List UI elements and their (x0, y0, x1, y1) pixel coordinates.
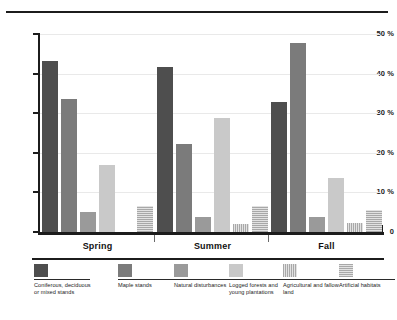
bar (366, 210, 382, 232)
bar (99, 165, 115, 232)
x-axis-label-fall: Fall (267, 241, 387, 251)
legend-swatch-icon (339, 264, 353, 277)
legend-underline (339, 279, 395, 280)
y-axis-tick-mark (33, 231, 39, 233)
bar (347, 223, 363, 232)
bar (137, 206, 153, 232)
legend-item[interactable]: Coniferous, deciduous or mixed stands (34, 264, 92, 296)
x-axis-group-separator (268, 235, 269, 242)
gridline (40, 34, 380, 35)
y-axis-tick-mark (33, 112, 39, 114)
legend-label: Agricultural and fallow land (283, 282, 341, 296)
gridline (40, 113, 380, 114)
bar (42, 61, 58, 232)
legend-swatch-icon (174, 264, 188, 277)
legend-underline (34, 279, 90, 280)
legend-swatch-icon (229, 264, 243, 277)
legend-underline (174, 279, 230, 280)
chart-plot-area: 010 %20 %30 %40 %50 % SpringSummerFall (0, 22, 394, 238)
y-axis-tick-mark (33, 152, 39, 154)
y-axis-tick-mark (33, 191, 39, 193)
legend-swatch-icon (34, 264, 48, 277)
bar (214, 118, 230, 232)
legend-item[interactable]: Logged forests and young plantations (229, 264, 287, 296)
bar (271, 102, 287, 232)
y-axis-line (38, 33, 40, 234)
legend-label: Natural disturbances (174, 282, 232, 289)
bar (176, 144, 192, 232)
legend-swatch-icon (118, 264, 132, 277)
legend-label: Maple stands (118, 282, 176, 289)
bar (252, 206, 268, 232)
legend-underline (283, 279, 339, 280)
legend-label: Artificial habitats (339, 282, 397, 289)
chart-legend: Coniferous, deciduous or mixed standsMap… (0, 258, 394, 320)
y-axis-tick-mark (33, 73, 39, 75)
gridline (40, 74, 380, 75)
bar (233, 224, 249, 232)
bar (157, 67, 173, 232)
bar (80, 212, 96, 232)
legend-swatch-icon (283, 264, 297, 277)
bar (290, 43, 306, 232)
legend-item[interactable]: Natural disturbances (174, 264, 232, 289)
bar (61, 99, 77, 232)
legend-item[interactable]: Artificial habitats (339, 264, 397, 289)
x-axis-label-spring: Spring (38, 241, 158, 251)
x-axis-group-separator (154, 235, 155, 242)
bar (309, 217, 325, 232)
bar (328, 178, 344, 232)
legend-underline (229, 279, 285, 280)
legend-underline (118, 279, 174, 280)
bar (195, 217, 211, 232)
y-axis-tick-mark (33, 33, 39, 35)
legend-item[interactable]: Maple stands (118, 264, 176, 289)
top-divider-rule (6, 11, 388, 13)
legend-label: Logged forests and young plantations (229, 282, 287, 296)
x-axis-label-summer: Summer (153, 241, 273, 251)
legend-item[interactable]: Agricultural and fallow land (283, 264, 341, 296)
legend-label: Coniferous, deciduous or mixed stands (34, 282, 92, 296)
x-axis-line (38, 232, 384, 235)
legend-divider-rule (32, 258, 384, 260)
gridline (40, 153, 380, 154)
